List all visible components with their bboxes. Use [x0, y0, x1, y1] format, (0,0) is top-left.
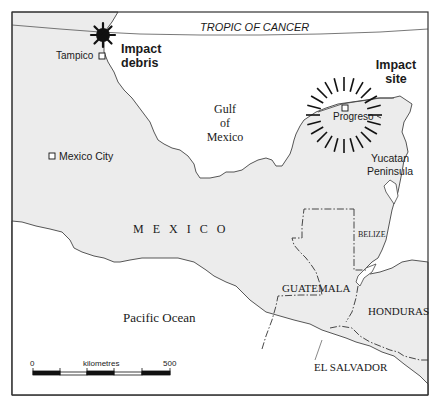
gulf-label-line3: Mexico — [200, 131, 250, 143]
pacific-ocean-label: Pacific Ocean — [123, 311, 196, 324]
impact-debris-label-line1: Impact — [121, 43, 161, 56]
mexico-city-label: Mexico City — [59, 151, 113, 162]
el-salvador-label: EL SALVADOR — [314, 362, 387, 373]
scale-start-label: 0 — [30, 360, 34, 368]
gulf-label-line1: Gulf — [200, 103, 250, 115]
scale-unit-label: kilometres — [83, 360, 119, 368]
yucatan-label-line1: Yucatan — [360, 153, 420, 164]
impact-debris-icon — [91, 23, 115, 47]
honduras-label: HONDURAS — [368, 306, 429, 317]
belize-label: BELIZE — [358, 231, 386, 239]
gulf-label-line2: of — [200, 117, 250, 129]
tampico-marker-icon — [99, 53, 105, 59]
impact-debris-label-line2: debris — [121, 57, 159, 70]
impact-site-label-line1: Impact — [371, 59, 421, 72]
mexico-label: M E X I C O — [133, 223, 228, 235]
scale-end-label: 500 — [163, 360, 176, 368]
mexico-city-marker-icon — [49, 153, 55, 159]
yucatan-label-line2: Peninsula — [360, 166, 420, 177]
impact-site-label-line2: site — [371, 73, 421, 86]
guatemala-label: GUATEMALA — [282, 283, 350, 294]
tropic-of-cancer-label: TROPIC OF CANCER — [200, 22, 309, 33]
tampico-label: Tampico — [56, 51, 93, 61]
progreso-label: Progreso — [333, 112, 374, 122]
